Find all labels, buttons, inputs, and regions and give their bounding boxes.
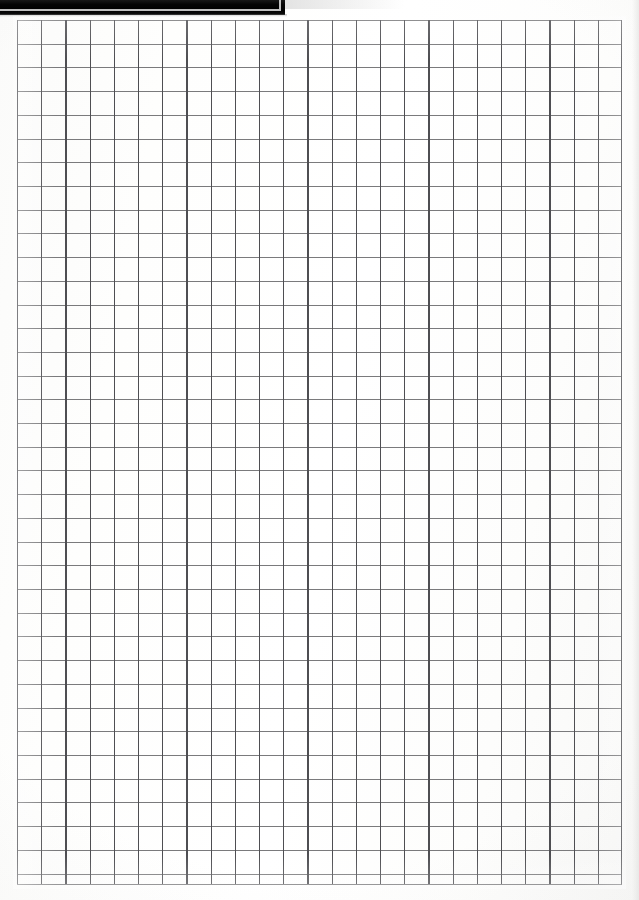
scanner-bar-highlight-edge bbox=[0, 0, 281, 11]
page-content-text bbox=[17, 20, 622, 885]
page-right-edge-shadow bbox=[632, 0, 639, 900]
scanned-page bbox=[0, 0, 639, 900]
scanner-bar-falloff bbox=[285, 0, 405, 9]
black-scanner-bar bbox=[0, 0, 285, 15]
